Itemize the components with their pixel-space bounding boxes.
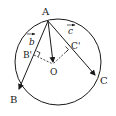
geometry-diagram: A B C O B' C' b c [0, 0, 116, 116]
right-angle-mark-c-prime [66, 47, 69, 53]
label-a: A [41, 6, 50, 17]
label-b-prime: B' [23, 50, 32, 60]
label-vector-c: c [68, 26, 73, 36]
label-c: C [100, 75, 108, 86]
label-c-prime: C' [71, 41, 80, 51]
label-b: B [10, 94, 17, 105]
label-vector-b: b [29, 37, 35, 47]
label-o: O [50, 67, 57, 77]
vector-ao [48, 21, 53, 62]
right-angle-mark-b-prime [37, 51, 41, 57]
diagram-svg: A B C O B' C' b c [0, 0, 116, 116]
perpendicular-ob-prime [34, 55, 53, 64]
